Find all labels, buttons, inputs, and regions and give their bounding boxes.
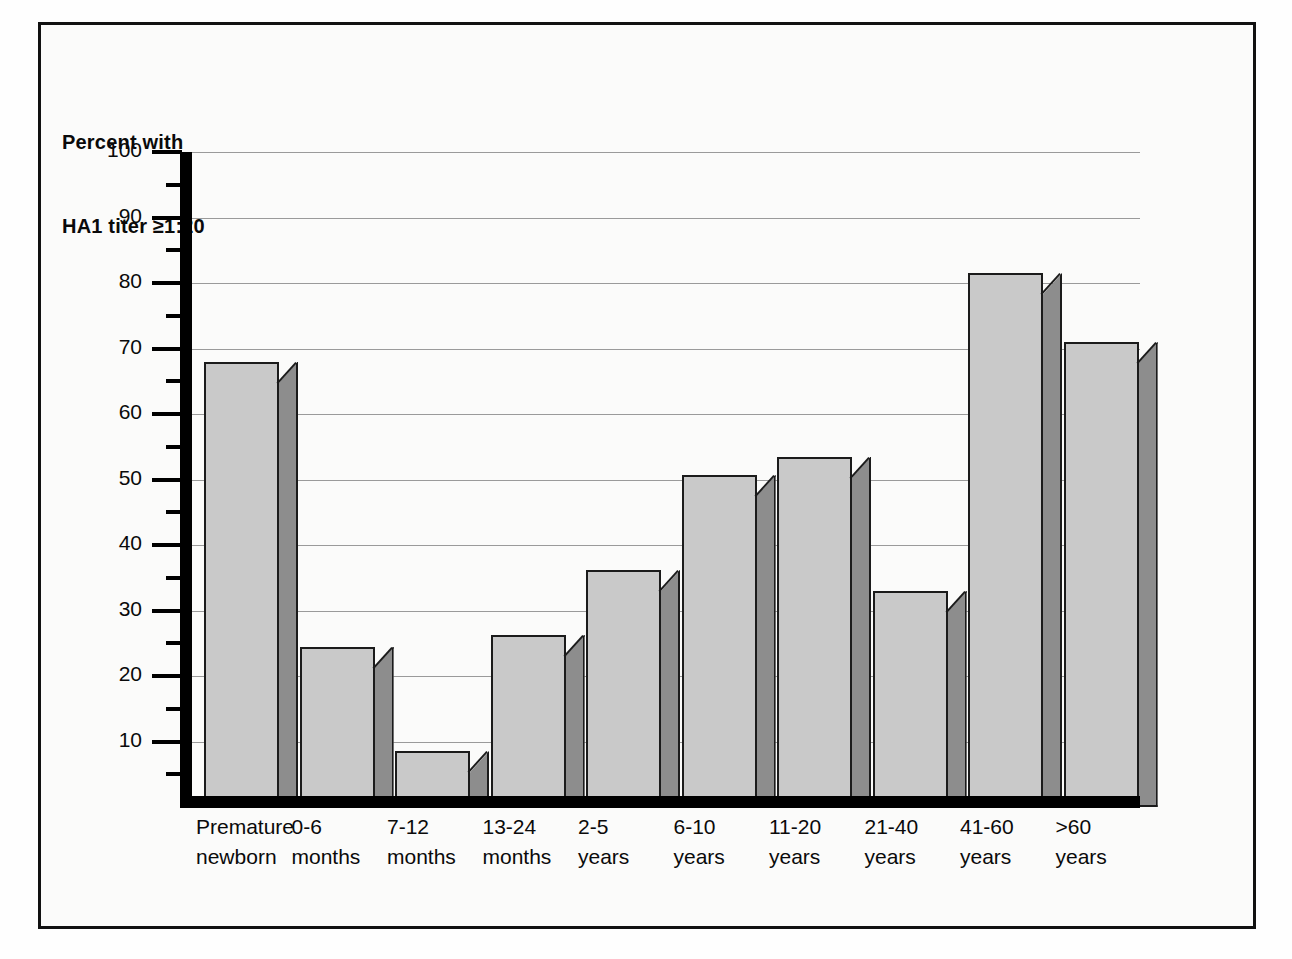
- bar-front-face: [777, 457, 852, 807]
- y-axis-tick-label: 10: [82, 728, 142, 752]
- y-axis-tick-major: [152, 478, 182, 482]
- bar-side-face: [948, 591, 967, 807]
- y-axis-tick-major: [152, 543, 182, 547]
- x-axis-category-label-line-1: >60: [1056, 812, 1186, 842]
- x-axis-category-label: >60years: [1056, 812, 1186, 872]
- bar[interactable]: [1064, 342, 1158, 807]
- bar-front-face: [491, 635, 566, 807]
- y-axis-tick-major: [152, 281, 182, 285]
- y-axis-tick-label: 60: [82, 400, 142, 424]
- bar-side-face: [566, 635, 585, 807]
- y-axis-tick-label: 20: [82, 662, 142, 686]
- y-axis-tick-minor: [166, 576, 182, 580]
- y-axis-tick-major: [152, 216, 182, 220]
- bar-front-face: [586, 570, 661, 807]
- bar-side-face: [375, 647, 394, 807]
- bar[interactable]: [682, 475, 776, 807]
- bar-front-face: [300, 647, 375, 807]
- bar-side-face: [661, 570, 680, 807]
- bar-front-face: [1064, 342, 1139, 807]
- bar-side-face: [1139, 342, 1158, 807]
- bar-side-face: [279, 362, 298, 807]
- y-axis-tick-major: [152, 412, 182, 416]
- gridline: [192, 218, 1140, 219]
- plot-area: [192, 152, 1140, 807]
- bar[interactable]: [968, 273, 1062, 807]
- y-axis-tick-minor: [166, 314, 182, 318]
- bar[interactable]: [300, 647, 394, 807]
- y-axis-tick-minor: [166, 183, 182, 187]
- y-axis-tick-label: 70: [82, 335, 142, 359]
- y-axis-tick-label: 80: [82, 269, 142, 293]
- y-axis-tick-minor: [166, 707, 182, 711]
- figure: Percent with HA1 titer ≥1:20 10203040506…: [0, 0, 1292, 959]
- y-axis-tick-label: 50: [82, 466, 142, 490]
- bar[interactable]: [204, 362, 298, 807]
- y-axis-tick-minor: [166, 510, 182, 514]
- y-axis-tick-major: [152, 740, 182, 744]
- bar[interactable]: [777, 457, 871, 807]
- bar-side-face: [1043, 273, 1062, 807]
- bar[interactable]: [491, 635, 585, 807]
- y-axis-tick-label: 90: [82, 204, 142, 228]
- bar[interactable]: [586, 570, 680, 807]
- y-axis-tick-minor: [166, 248, 182, 252]
- bar-side-face: [852, 457, 871, 807]
- bar-side-face: [757, 475, 776, 807]
- y-axis-tick-major: [152, 609, 182, 613]
- x-axis-baseline: [180, 796, 1140, 808]
- y-axis-tick-minor: [166, 772, 182, 776]
- y-axis-tick-minor: [166, 379, 182, 383]
- bar-front-face: [682, 475, 757, 807]
- bar-front-face: [968, 273, 1043, 807]
- bar[interactable]: [873, 591, 967, 807]
- y-axis-tick-label: 30: [82, 597, 142, 621]
- y-axis-tick-label: 40: [82, 531, 142, 555]
- x-axis-category-label-line-2: years: [1056, 842, 1186, 872]
- x-axis-category-labels: Prematurenewborn0-6months7-12months13-24…: [192, 812, 1152, 892]
- y-axis-tick-major: [152, 150, 182, 154]
- gridline: [192, 152, 1140, 153]
- y-axis-tick-major: [152, 674, 182, 678]
- bar-front-face: [873, 591, 948, 807]
- y-axis-tick-minor: [166, 445, 182, 449]
- y-axis-tick-major: [152, 347, 182, 351]
- y-axis-tick-label: 100: [82, 138, 142, 162]
- y-axis-tick-minor: [166, 641, 182, 645]
- bar-front-face: [204, 362, 279, 807]
- y-axis-tick-labels: 102030405060708090100: [82, 0, 142, 959]
